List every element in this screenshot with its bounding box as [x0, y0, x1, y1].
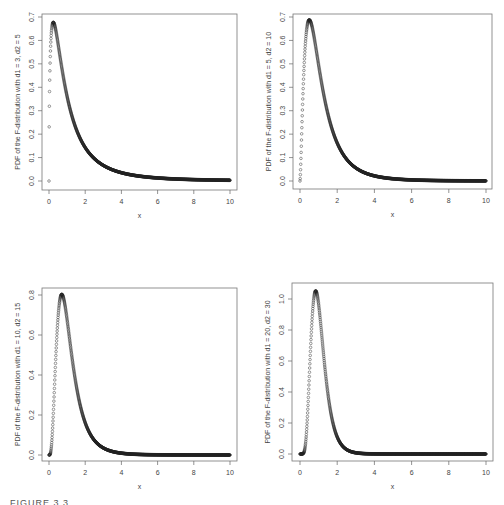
x-tick-label: 6: [156, 469, 160, 476]
x-tick-label: 4: [372, 469, 376, 476]
y-tick-label: 0.6: [279, 35, 286, 45]
y-tick-label: 0.6: [28, 330, 35, 340]
y-tick-label: 0.0: [28, 450, 35, 460]
data-points: [299, 19, 488, 183]
figure-caption: FIGURE 3.3: [10, 498, 69, 505]
data-points: [48, 293, 232, 456]
x-tick-label: 8: [447, 197, 451, 204]
y-tick-label: 0.0: [278, 449, 285, 459]
y-tick-label: 0.5: [28, 59, 35, 69]
data-points: [48, 21, 232, 182]
f-distribution-chart-4: 02468100.00.20.40.60.81.0xPDF of the F-d…: [264, 283, 493, 490]
y-tick-label: 0.6: [28, 35, 35, 45]
x-axis-title: x: [138, 212, 142, 219]
plot-frame: [293, 14, 492, 189]
plot-frame: [42, 288, 237, 461]
x-axis-title: x: [138, 483, 142, 490]
y-axis-title: PDF of the F-distribution with d1 = 5, d…: [265, 32, 272, 171]
y-tick-label: 0.7: [279, 12, 286, 22]
x-axis-title: x: [391, 211, 395, 218]
plot-frame: [292, 283, 493, 461]
x-tick-label: 2: [335, 197, 339, 204]
y-tick-label: 0.5: [279, 59, 286, 69]
charts-canvas: 02468100.00.10.20.30.40.50.60.7xPDF of t…: [0, 0, 504, 505]
y-tick-label: 0.7: [28, 12, 35, 22]
x-tick-label: 10: [226, 198, 234, 205]
x-tick-label: 10: [482, 469, 490, 476]
x-tick-label: 2: [83, 198, 87, 205]
y-tick-label: 0.2: [278, 418, 285, 428]
y-tick-label: 0.2: [28, 129, 35, 139]
x-tick-label: 10: [226, 469, 234, 476]
y-tick-label: 1.0: [278, 294, 285, 304]
y-tick-label: 0.3: [279, 106, 286, 116]
x-tick-label: 0: [298, 197, 302, 204]
x-axis-title: x: [391, 483, 395, 490]
f-distribution-chart-2: 02468100.00.10.20.30.40.50.60.7xPDF of t…: [265, 12, 492, 218]
y-tick-label: 0.4: [28, 370, 35, 380]
y-tick-label: 0.4: [279, 82, 286, 92]
x-tick-label: 0: [47, 198, 51, 205]
x-tick-label: 0: [47, 469, 51, 476]
y-tick-label: 0.1: [279, 153, 286, 163]
data-points: [299, 290, 488, 456]
x-tick-label: 0: [298, 469, 302, 476]
x-tick-label: 2: [83, 469, 87, 476]
y-tick-label: 0.6: [278, 356, 285, 366]
y-tick-label: 0.8: [28, 290, 35, 300]
x-tick-label: 6: [410, 197, 414, 204]
x-tick-label: 6: [156, 198, 160, 205]
y-tick-label: 0.4: [28, 82, 35, 92]
y-tick-label: 0.1: [28, 153, 35, 163]
y-axis-title: PDF of the F-distribution with d1 = 10, …: [14, 303, 21, 446]
y-axis-title: PDF of the F-distribution with d1 = 3, d…: [14, 34, 21, 170]
y-tick-label: 0.2: [279, 129, 286, 139]
x-tick-label: 4: [372, 197, 376, 204]
x-tick-label: 10: [482, 197, 490, 204]
x-tick-label: 8: [447, 469, 451, 476]
x-tick-label: 4: [119, 198, 123, 205]
y-tick-label: 0.2: [28, 410, 35, 420]
x-tick-label: 4: [119, 469, 123, 476]
plot-frame: [42, 14, 237, 190]
y-tick-label: 0.3: [28, 106, 35, 116]
x-tick-label: 8: [192, 198, 196, 205]
y-tick-label: 0.0: [279, 176, 286, 186]
x-tick-label: 2: [335, 469, 339, 476]
y-axis-title: PDF of the F-distribution with d1 = 20, …: [264, 300, 271, 443]
x-tick-label: 6: [410, 469, 414, 476]
y-tick-label: 0.4: [278, 387, 285, 397]
f-distribution-chart-3: 02468100.00.20.40.60.8xPDF of the F-dist…: [14, 288, 237, 490]
f-distribution-chart-1: 02468100.00.10.20.30.40.50.60.7xPDF of t…: [14, 12, 237, 219]
x-tick-label: 8: [192, 469, 196, 476]
y-tick-label: 0.0: [28, 176, 35, 186]
y-tick-label: 0.8: [278, 325, 285, 335]
